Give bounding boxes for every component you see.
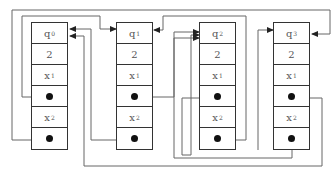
node-key-cell-x1: x1 <box>32 65 67 86</box>
node-value-cell: 2 <box>117 44 152 65</box>
node-pointer-cell <box>32 128 67 149</box>
label-subscript: 0 <box>51 30 55 37</box>
label-subscript: 2 <box>51 114 55 121</box>
label-base: x <box>44 70 50 81</box>
node-key-cell-x1: x1 <box>200 65 235 86</box>
pointer-dot-icon <box>46 93 53 100</box>
label-subscript: 1 <box>293 72 297 79</box>
node-key-cell-x1: x1 <box>117 65 152 86</box>
label-subscript: 1 <box>136 30 140 37</box>
node-label-cell: q3 <box>274 23 309 44</box>
node-q0: q0 2 x1 x2 <box>31 22 68 150</box>
label-subscript: 3 <box>293 30 297 37</box>
pointer-dot-icon <box>46 135 53 142</box>
node-key-cell-x2: x2 <box>274 107 309 128</box>
label-base: q <box>286 28 292 39</box>
node-value-cell: 2 <box>32 44 67 65</box>
label-base: q <box>44 28 50 39</box>
label-base: q <box>129 28 135 39</box>
node-pointer-cell <box>274 128 309 149</box>
node-pointer-cell <box>274 86 309 107</box>
node-q2: q2 2 x1 x2 <box>199 22 236 150</box>
node-pointer-cell <box>200 128 235 149</box>
label-base: x <box>286 112 292 123</box>
label-base: x <box>212 112 218 123</box>
node-pointer-cell <box>200 86 235 107</box>
node-pointer-cell <box>32 86 67 107</box>
pointer-dot-icon <box>131 93 138 100</box>
label-base: q <box>212 28 218 39</box>
pointer-dot-icon <box>214 93 221 100</box>
label-base: x <box>129 112 135 123</box>
value-text: 2 <box>46 49 52 60</box>
node-label-cell: q0 <box>32 23 67 44</box>
label-subscript: 2 <box>293 114 297 121</box>
node-q1: q1 2 x1 x2 <box>116 22 153 150</box>
label-subscript: 1 <box>51 72 55 79</box>
label-subscript: 1 <box>136 72 140 79</box>
node-value-cell: 2 <box>200 44 235 65</box>
node-key-cell-x2: x2 <box>32 107 67 128</box>
label-subscript: 1 <box>219 72 223 79</box>
node-value-cell: 2 <box>274 44 309 65</box>
edge-to-q3-left <box>258 30 273 148</box>
label-base: x <box>44 112 50 123</box>
label-subscript: 2 <box>136 114 140 121</box>
label-base: x <box>129 70 135 81</box>
linked-nodes-diagram: q0 2 x1 x2 q1 2 x1 x2 q2 2 x1 x2 q3 2 x1… <box>0 0 336 173</box>
value-text: 2 <box>131 49 137 60</box>
node-q3: q3 2 x1 x2 <box>273 22 310 150</box>
pointer-dot-icon <box>131 135 138 142</box>
label-subscript: 2 <box>219 114 223 121</box>
node-pointer-cell <box>117 86 152 107</box>
node-key-cell-x1: x1 <box>274 65 309 86</box>
node-key-cell-x2: x2 <box>117 107 152 128</box>
value-text: 2 <box>214 49 220 60</box>
pointer-dot-icon <box>288 93 295 100</box>
node-label-cell: q1 <box>117 23 152 44</box>
pointer-dot-icon <box>214 135 221 142</box>
node-pointer-cell <box>117 128 152 149</box>
pointer-dot-icon <box>288 135 295 142</box>
label-subscript: 2 <box>219 30 223 37</box>
label-base: x <box>286 70 292 81</box>
value-text: 2 <box>288 49 294 60</box>
node-key-cell-x2: x2 <box>200 107 235 128</box>
node-label-cell: q2 <box>200 23 235 44</box>
label-base: x <box>212 70 218 81</box>
